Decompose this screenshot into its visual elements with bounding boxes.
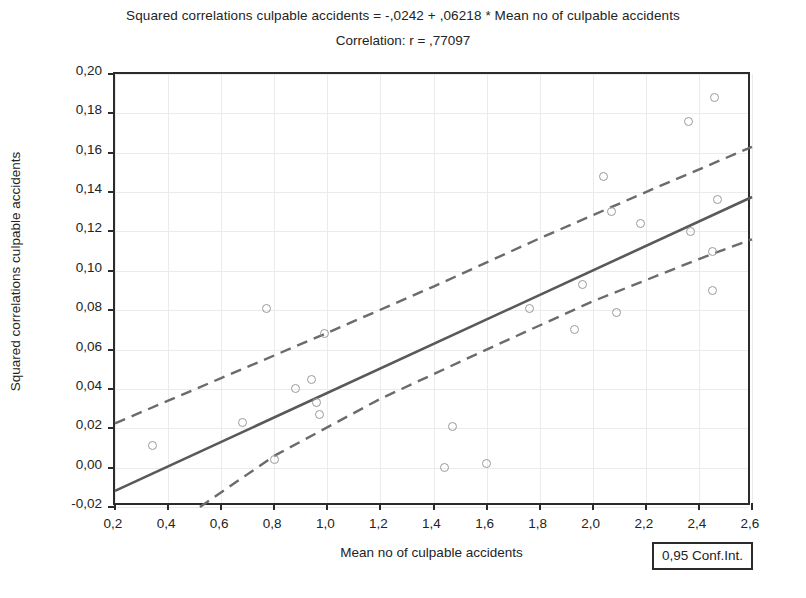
scatter-point <box>448 422 457 431</box>
y-tick-label: 0,06 <box>76 339 102 354</box>
plot-area-frame <box>113 72 750 505</box>
y-axis-tick-mark <box>108 427 115 429</box>
gridline-horizontal <box>115 507 748 508</box>
x-tick-label: 1,0 <box>300 516 350 531</box>
x-tick-label: 2,6 <box>725 516 775 531</box>
scatter-point <box>315 410 324 419</box>
x-tick-label: 0,6 <box>194 516 244 531</box>
x-tick-label: 0,4 <box>141 516 191 531</box>
x-tick-label: 1,6 <box>460 516 510 531</box>
scatter-point <box>525 304 534 313</box>
x-axis-tick-mark <box>167 503 169 510</box>
confidence-band-lower <box>200 239 752 507</box>
x-axis-tick-mark <box>326 503 328 510</box>
correlation-subtitle: Correlation: r = ,77097 <box>0 33 806 48</box>
x-tick-label: 0,2 <box>88 516 138 531</box>
y-tick-label: 0,04 <box>76 378 102 393</box>
plot-inner <box>115 74 748 503</box>
scatter-point <box>238 418 247 427</box>
x-tick-label: 1,2 <box>353 516 403 531</box>
y-tick-label: 0,16 <box>76 142 102 157</box>
x-tick-label: 2,2 <box>619 516 669 531</box>
y-axis-tick-mark <box>108 349 115 351</box>
y-tick-label: 0,02 <box>76 417 102 432</box>
scatter-point <box>307 375 316 384</box>
x-axis-tick-mark <box>592 503 594 510</box>
y-tick-label: 0,10 <box>76 260 102 275</box>
y-axis-tick-mark <box>108 191 115 193</box>
chart-title-block: Squared correlations culpable accidents … <box>0 8 806 48</box>
scatter-point <box>708 286 717 295</box>
x-axis-tick-mark <box>433 503 435 510</box>
scatter-point <box>570 325 579 334</box>
y-tick-label: 0,00 <box>76 457 102 472</box>
y-axis-tick-mark <box>108 230 115 232</box>
scatter-point <box>708 247 717 256</box>
y-axis-tick-mark <box>108 112 115 114</box>
x-axis-tick-mark <box>751 503 753 510</box>
scatter-point <box>684 117 693 126</box>
x-axis-tick-mark <box>698 503 700 510</box>
x-tick-label: 0,8 <box>247 516 297 531</box>
y-axis-tick-mark <box>108 309 115 311</box>
y-tick-label: 0,20 <box>76 63 102 78</box>
scatter-point <box>440 463 449 472</box>
y-tick-label: -0,02 <box>71 496 102 511</box>
scatter-point <box>612 308 621 317</box>
x-tick-label: 2,0 <box>566 516 616 531</box>
confidence-band-upper <box>115 147 752 424</box>
gridline-vertical <box>752 74 753 503</box>
y-axis-tick-mark <box>108 73 115 75</box>
y-axis-tick-mark <box>108 388 115 390</box>
x-axis-tick-mark <box>379 503 381 510</box>
x-tick-label: 1,4 <box>407 516 457 531</box>
y-axis-tick-mark <box>108 152 115 154</box>
x-axis-tick-mark <box>539 503 541 510</box>
regression-line <box>115 197 752 491</box>
y-tick-label: 0,18 <box>76 102 102 117</box>
y-axis-tick-mark <box>108 467 115 469</box>
y-tick-label: 0,12 <box>76 220 102 235</box>
x-axis-tick-mark <box>114 503 116 510</box>
x-axis-tick-mark <box>645 503 647 510</box>
x-axis-tick-mark <box>486 503 488 510</box>
confidence-interval-legend: 0,95 Conf.Int. <box>652 542 753 570</box>
chart-page: Squared correlations culpable accidents … <box>0 0 806 598</box>
x-axis-tick-mark <box>273 503 275 510</box>
scatter-point <box>262 304 271 313</box>
y-tick-label: 0,14 <box>76 181 102 196</box>
scatter-point <box>270 455 279 464</box>
chart-lines-overlay <box>115 74 748 503</box>
regression-equation-title: Squared correlations culpable accidents … <box>0 8 806 23</box>
y-tick-label: 0,08 <box>76 299 102 314</box>
x-tick-label: 1,8 <box>513 516 563 531</box>
y-axis-tick-mark <box>108 270 115 272</box>
y-axis-title: Squared correlations culpable accidents <box>8 0 23 552</box>
x-axis-tick-mark <box>220 503 222 510</box>
x-tick-label: 2,4 <box>672 516 722 531</box>
scatter-point <box>599 172 608 181</box>
scatter-point <box>578 280 587 289</box>
